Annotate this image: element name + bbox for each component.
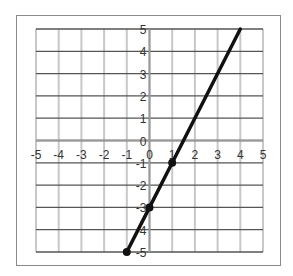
line-chart: -5-4-3-2-1012345543210-1-2-3-4-5 <box>0 0 293 276</box>
x-tick-label: 2 <box>192 148 199 162</box>
x-tick-label: 0 <box>146 148 153 162</box>
x-tick-label: 5 <box>260 148 267 162</box>
x-tick-label: -5 <box>31 148 42 162</box>
y-tick-label: -2 <box>136 179 147 193</box>
x-tick-label: -4 <box>53 148 64 162</box>
data-point-marker <box>168 159 176 167</box>
y-tick-label: 5 <box>140 23 147 37</box>
x-tick-label: -2 <box>99 148 110 162</box>
x-tick-label: -3 <box>76 148 87 162</box>
y-tick-label: 1 <box>140 112 147 126</box>
y-tick-label: 2 <box>140 90 147 104</box>
data-point-marker <box>123 248 131 256</box>
y-tick-label: 0 <box>140 135 147 149</box>
y-tick-label: 4 <box>140 45 147 59</box>
x-tick-label: 3 <box>214 148 221 162</box>
y-tick-label: -1 <box>136 157 147 171</box>
x-tick-label: -1 <box>121 148 132 162</box>
data-point-marker <box>146 203 154 211</box>
x-tick-label: 4 <box>237 148 244 162</box>
y-tick-label: 3 <box>140 68 147 82</box>
y-tick-label: -5 <box>136 246 147 260</box>
